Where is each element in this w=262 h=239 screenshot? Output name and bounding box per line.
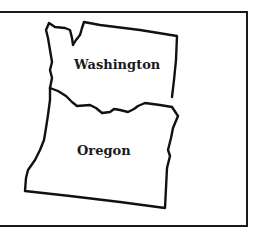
washington-label: Washington [74,57,160,72]
map-outline [0,0,262,239]
wa-or-border [50,88,172,113]
oregon-label: Oregon [77,143,131,158]
